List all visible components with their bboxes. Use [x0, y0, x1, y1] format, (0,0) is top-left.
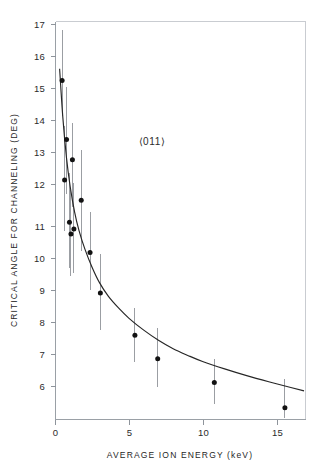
y-tick-label: 10 [34, 253, 45, 264]
x-tick-0: 0 [53, 420, 58, 439]
y-tick-8: 8 [40, 317, 56, 328]
y-tick-label: 8 [40, 317, 45, 328]
y-tick-16: 16 [34, 51, 55, 62]
data-point [132, 333, 137, 338]
data-point [79, 198, 84, 203]
x-tick-10: 10 [198, 420, 209, 439]
y-tick-label: 9 [40, 285, 45, 296]
data-point [155, 356, 160, 361]
data-point [67, 220, 72, 225]
data-point [68, 231, 73, 236]
axes [56, 22, 306, 420]
x-tick-label: 15 [272, 427, 283, 438]
x-tick-5: 5 [127, 420, 132, 439]
y-tick-label: 15 [34, 83, 45, 94]
data-point [71, 226, 76, 231]
data-point [64, 137, 69, 142]
y-tick-14: 14 [34, 115, 55, 126]
figure-container: 17 16 15 14 13 12 11 10 9 8 7 6 0 5 10 1… [0, 0, 321, 471]
y-tick-label: 14 [34, 115, 45, 126]
data-point [60, 78, 65, 83]
channeling-scatter-chart: 17 16 15 14 13 12 11 10 9 8 7 6 0 5 10 1… [0, 0, 321, 471]
data-points-layer [60, 78, 288, 410]
y-tick-13: 13 [34, 147, 55, 158]
data-point [212, 380, 217, 385]
fit-curve-layer [60, 69, 304, 391]
y-tick-label: 11 [35, 221, 45, 232]
plot-frame [56, 22, 306, 420]
y-tick-label: 12 [34, 179, 45, 190]
y-axis-title: CRITICAL ANGLE FOR CHANNELING (DEG) [9, 113, 19, 327]
data-point [62, 178, 67, 183]
y-tick-12: 12 [34, 179, 55, 190]
data-point [98, 291, 103, 296]
y-tick-label: 6 [40, 381, 45, 392]
y-tick-label: 17 [34, 19, 45, 30]
x-axis-ticks: 0 5 10 15 [53, 420, 283, 439]
y-tick-11: 11 [35, 221, 56, 232]
x-axis-title: AVERAGE ION ENERGY (keV) [107, 450, 253, 460]
errorbars-layer [62, 30, 285, 418]
y-tick-10: 10 [34, 253, 55, 264]
data-point [282, 405, 287, 410]
y-tick-label: 7 [40, 349, 45, 360]
y-axis-ticks: 17 16 15 14 13 12 11 10 9 8 7 6 [34, 19, 55, 392]
x-tick-label: 0 [53, 427, 58, 438]
y-tick-label: 16 [34, 51, 45, 62]
y-tick-7: 7 [40, 349, 56, 360]
fit-curve [60, 69, 304, 391]
y-tick-15: 15 [34, 83, 55, 94]
y-tick-6: 6 [40, 381, 56, 392]
y-tick-label: 13 [34, 147, 45, 158]
data-point [88, 250, 93, 255]
data-point [70, 157, 75, 162]
y-tick-17: 17 [34, 19, 55, 30]
x-tick-15: 15 [272, 420, 283, 439]
x-tick-label: 5 [127, 427, 132, 438]
y-tick-9: 9 [40, 285, 56, 296]
x-tick-label: 10 [198, 427, 209, 438]
direction-annotation: ⟨011⟩ [139, 136, 166, 147]
